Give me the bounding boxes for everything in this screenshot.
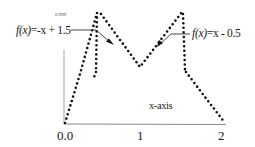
left-equation-rhs: =-x + 1.5 bbox=[31, 24, 71, 36]
x-tick-0: 0.0 bbox=[57, 129, 73, 142]
small-value-label: 0.999 bbox=[55, 12, 66, 17]
diagram-canvas bbox=[0, 0, 255, 147]
left-equation-label: f(x)=-x + 1.5 bbox=[16, 25, 71, 37]
right-equation-rhs: =x - 0.5 bbox=[207, 27, 241, 39]
x-tick-1: 1 bbox=[137, 129, 144, 142]
x-axis-line bbox=[64, 124, 226, 125]
right-equation-leader bbox=[157, 34, 190, 47]
right-equation-label: f(x)=x - 0.5 bbox=[192, 28, 241, 40]
left-equation-leader bbox=[71, 30, 114, 45]
left-equation-fx: f(x) bbox=[16, 24, 31, 36]
x-axis-title: x-axis bbox=[149, 101, 172, 112]
right-equation-fx: f(x) bbox=[192, 27, 207, 39]
x-tick-2: 2 bbox=[218, 129, 225, 142]
